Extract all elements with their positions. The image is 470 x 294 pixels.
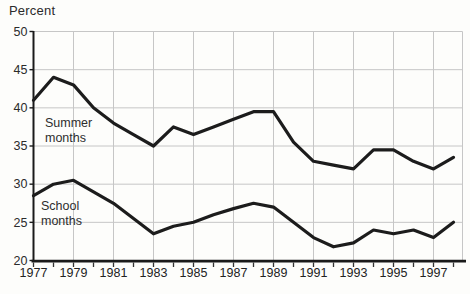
x-tick-label: 1997: [420, 266, 448, 280]
x-tick-label: 1991: [300, 266, 328, 280]
x-tick-label: 1979: [60, 266, 88, 280]
y-tick-label: 45: [14, 63, 28, 77]
y-tick-label: 40: [14, 101, 28, 115]
plot-area: 2025303540455019771979198119831985198719…: [0, 0, 470, 294]
x-tick-label: 1983: [140, 266, 168, 280]
x-tick-label: 1995: [380, 266, 408, 280]
y-tick-label: 35: [14, 139, 28, 153]
y-tick-label: 30: [14, 177, 28, 191]
y-tick-label: 25: [14, 216, 28, 230]
x-tick-label: 1993: [340, 266, 368, 280]
x-tick-label: 1977: [20, 266, 48, 280]
chart-figure: Percent 20253035404550197719791981198319…: [0, 0, 470, 294]
series-label-summer: Summer months: [45, 116, 107, 146]
x-tick-label: 1985: [180, 266, 208, 280]
x-tick-label: 1981: [100, 266, 128, 280]
x-tick-label: 1987: [220, 266, 248, 280]
x-tick-label: 1989: [260, 266, 288, 280]
series-label-school: School months: [41, 199, 99, 229]
y-tick-label: 50: [14, 25, 28, 39]
